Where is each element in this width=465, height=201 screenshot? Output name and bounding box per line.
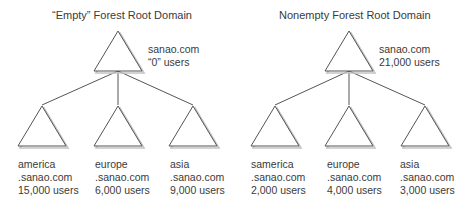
child-domain-users: 15,000 users [18, 184, 79, 197]
child-domain-name: asia [170, 158, 225, 171]
child-domain-name: samerica [251, 158, 306, 171]
root-domain-triangle [325, 31, 375, 73]
child-domain-name: america [18, 158, 79, 171]
child-domain-label: europe .sanao.com 6,000 users [95, 158, 150, 197]
child-domain-triangle [325, 106, 375, 148]
child-domain-triangle [401, 106, 451, 148]
root-domain-triangle [94, 31, 144, 73]
child-domain-label: asia .sanao.com 9,000 users [170, 158, 225, 197]
child-domain-triangle [94, 106, 144, 148]
root-domain-users: “0” users [148, 56, 199, 69]
empty-forest-title: “Empty” Forest Root Domain [52, 9, 192, 22]
root-domain-name: sanao.com [148, 43, 199, 56]
root-domain-label: sanao.com 21,000 users [379, 43, 440, 69]
child-domain-suffix: .sanao.com [251, 171, 306, 184]
child-domain-triangle [169, 106, 219, 148]
child-domain-label: samerica .sanao.com 2,000 users [251, 158, 306, 197]
child-domain-label: europe .sanao.com 4,000 users [327, 158, 382, 197]
child-domain-name: europe [327, 158, 382, 171]
child-domain-users: 2,000 users [251, 184, 306, 197]
child-domain-users: 4,000 users [327, 184, 382, 197]
child-domain-label: asia .sanao.com 3,000 users [400, 158, 455, 197]
child-domain-name: asia [400, 158, 455, 171]
root-domain-label: sanao.com “0” users [148, 43, 199, 69]
child-domain-suffix: .sanao.com [327, 171, 382, 184]
child-domain-triangle [251, 106, 301, 148]
root-domain-name: sanao.com [379, 43, 440, 56]
child-domain-label: america .sanao.com 15,000 users [18, 158, 79, 197]
child-domain-triangle [18, 106, 68, 148]
child-domain-suffix: .sanao.com [400, 171, 455, 184]
child-domain-users: 6,000 users [95, 184, 150, 197]
child-domain-suffix: .sanao.com [95, 171, 150, 184]
child-domain-users: 9,000 users [170, 184, 225, 197]
child-domain-users: 3,000 users [400, 184, 455, 197]
nonempty-forest-title: Nonempty Forest Root Domain [279, 9, 431, 22]
child-domain-suffix: .sanao.com [18, 171, 79, 184]
child-domain-suffix: .sanao.com [170, 171, 225, 184]
root-domain-users: 21,000 users [379, 56, 440, 69]
child-domain-name: europe [95, 158, 150, 171]
